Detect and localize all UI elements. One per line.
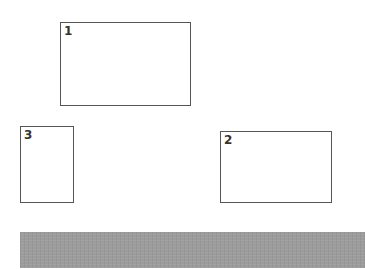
box-2: 2: [220, 131, 332, 203]
gray-bar: [20, 232, 365, 268]
box-1-label: 1: [64, 25, 72, 37]
box-3-label: 3: [24, 129, 32, 141]
box-3: 3: [20, 126, 74, 203]
box-1: 1: [60, 22, 191, 106]
box-2-label: 2: [224, 134, 232, 146]
